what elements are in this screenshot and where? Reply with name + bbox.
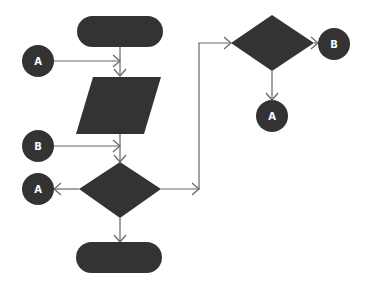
end-terminator[interactable] [76,242,162,273]
flowchart-canvas: A B A B A [0,0,386,284]
decision-1-diamond[interactable] [79,162,161,218]
connector-a-out[interactable]: A [22,173,54,205]
connector-a-in[interactable]: A [22,45,54,77]
start-terminator[interactable] [77,16,163,47]
connector-b-out-label: B [330,39,338,50]
connector-a-out-2-label: A [268,111,276,122]
edge-decision-to-decision2 [161,43,231,189]
decision-2-diamond[interactable] [231,15,314,71]
edges [54,37,318,242]
connector-b-out[interactable]: B [318,28,350,60]
connector-a-out-2[interactable]: A [256,100,288,132]
connector-b-in-label: B [34,141,42,152]
connector-a-in-label: A [34,56,42,67]
input-output-parallelogram[interactable] [76,77,161,134]
connector-a-out-label: A [34,184,42,195]
connector-b-in[interactable]: B [22,130,54,162]
